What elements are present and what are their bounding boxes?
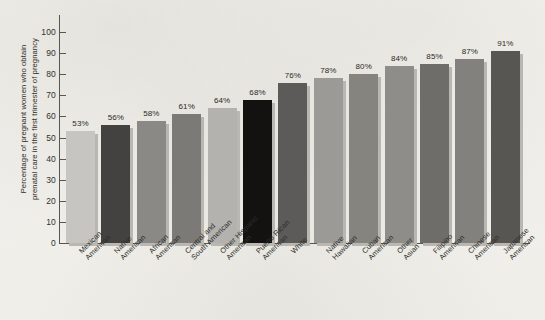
bar-value-label: 80% — [356, 62, 372, 71]
bar-rect — [349, 74, 378, 243]
bar-rect — [137, 121, 166, 243]
y-axis-title-line-1: Percentage of pregnant women who obtain — [18, 8, 29, 230]
bar: 87% — [455, 59, 484, 243]
bar-value-label: 53% — [72, 119, 88, 128]
bar-value-label: 87% — [462, 47, 478, 56]
bar-value-label: 58% — [143, 109, 159, 118]
bar-value-label: 85% — [426, 52, 442, 61]
bar-rect — [101, 125, 130, 243]
y-axis-tick-label: 60 — [34, 111, 56, 121]
bar: 53% — [66, 131, 95, 243]
bar-value-label: 91% — [497, 39, 513, 48]
bar: 61% — [172, 114, 201, 243]
y-axis-tick-label: 40 — [34, 154, 56, 164]
bar-rect — [455, 59, 484, 243]
y-axis-tick — [60, 95, 66, 96]
bar: 91% — [491, 51, 520, 243]
bar: 56% — [101, 125, 130, 243]
bar-rect — [66, 131, 95, 243]
y-axis-tick — [60, 116, 66, 117]
bar-chart: Percentage of pregnant women who obtain … — [0, 0, 545, 320]
bar-value-label: 84% — [391, 54, 407, 63]
bar-rect — [491, 51, 520, 243]
y-axis-tick-label: 10 — [34, 217, 56, 227]
bar-value-label: 64% — [214, 96, 230, 105]
y-axis-tick-label: 20 — [34, 196, 56, 206]
plot-area: Percentage of pregnant women who obtain … — [0, 0, 545, 320]
y-axis-tick-label: 0 — [34, 238, 56, 248]
bar-rect — [385, 66, 414, 243]
bar-rect — [420, 64, 449, 243]
bar: 84% — [385, 66, 414, 243]
y-axis-tick-label: 50 — [34, 133, 56, 143]
bar: 78% — [314, 78, 343, 243]
y-axis-line — [59, 15, 60, 244]
bar-value-label: 61% — [179, 102, 195, 111]
bar-rect — [172, 114, 201, 243]
y-axis-tick-label: 70 — [34, 90, 56, 100]
y-axis-tick-label: 80 — [34, 69, 56, 79]
y-axis-tick-label: 100 — [34, 27, 56, 37]
bar-value-label: 68% — [249, 88, 265, 97]
y-axis-tick — [60, 74, 66, 75]
bar-value-label: 76% — [285, 71, 301, 80]
bar: 85% — [420, 64, 449, 243]
y-axis-tick — [60, 53, 66, 54]
y-axis-tick — [60, 243, 66, 244]
bar-value-label: 56% — [108, 113, 124, 122]
bar: 80% — [349, 74, 378, 243]
y-axis-tick-label: 90 — [34, 48, 56, 58]
y-axis-tick-label: 30 — [34, 175, 56, 185]
bar-value-label: 78% — [320, 66, 336, 75]
bar-rect — [314, 78, 343, 243]
y-axis-tick — [60, 32, 66, 33]
bar: 58% — [137, 121, 166, 243]
